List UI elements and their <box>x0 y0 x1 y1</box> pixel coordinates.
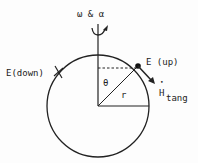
rotation-arrowhead-icon <box>103 25 108 31</box>
h-tang-subscript: tang <box>166 93 188 103</box>
e-down-label: E(down) <box>6 68 44 78</box>
omega-alpha-label: ω & α <box>77 9 105 19</box>
theta-label: θ <box>103 78 108 88</box>
h-tang-symbol: H <box>159 88 164 98</box>
tangent-arrow-shaft <box>138 66 152 81</box>
r-label: r <box>121 90 127 100</box>
rotating-sphere-diagram: ω & α E (up) E(down) θ r • H tang <box>0 0 198 163</box>
e-up-label: E (up) <box>146 57 179 67</box>
diagram-canvas: ω & α E (up) E(down) θ r • H tang <box>0 0 198 163</box>
e-down-mark-2 <box>54 68 63 76</box>
h-dot-label: • <box>160 78 164 85</box>
